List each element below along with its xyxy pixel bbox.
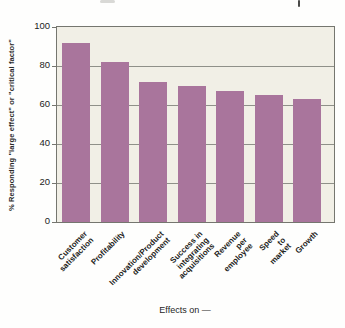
y-tick-label-80: 80 <box>18 59 50 71</box>
x-category-label-speed-to-market: Speed to market <box>257 230 294 267</box>
y-tick-mark-0 <box>52 222 57 223</box>
y-tick-mark-40 <box>52 144 57 145</box>
bar-profitability <box>101 62 129 222</box>
bar-success-in-integrating-acquisitions <box>178 86 206 223</box>
x-category-label-success-in-integrating-acquisitions: Success in integrating acquisitions <box>165 230 216 281</box>
bar-speed-to-market <box>255 95 283 222</box>
bar-growth <box>293 99 321 222</box>
y-tick-mark-60 <box>52 105 57 106</box>
bar-revenue-per-employee <box>216 91 244 222</box>
cropped-text-remnant-left <box>100 0 115 3</box>
y-tick-mark-20 <box>52 183 57 184</box>
x-category-label-growth: Growth <box>294 230 320 256</box>
plot-area <box>56 26 335 223</box>
gridline-80 <box>57 66 334 67</box>
x-category-label-customer-satisfaction: Customer satisfaction <box>52 230 95 273</box>
y-tick-mark-100 <box>52 27 57 28</box>
cropped-text-remnant-right <box>298 0 300 7</box>
y-tick-label-20: 20 <box>18 176 50 188</box>
x-category-label-revenue-per-employee: Revenue per employee <box>211 230 255 274</box>
y-tick-mark-80 <box>52 66 57 67</box>
bar-innovation-product-development <box>139 82 167 222</box>
figure: % Responding "large effect" or "critical… <box>0 0 345 328</box>
x-axis-title: Effects on — <box>40 305 330 315</box>
y-axis-title: % Responding "large effect" or "critical… <box>7 15 21 235</box>
y-tick-label-60: 60 <box>18 98 50 110</box>
x-category-label-profitability: Profitability <box>90 230 127 267</box>
y-tick-label-100: 100 <box>18 20 50 32</box>
bar-customer-satisfaction <box>62 43 90 222</box>
y-tick-label-40: 40 <box>18 137 50 149</box>
y-tick-label-0: 0 <box>18 215 50 227</box>
